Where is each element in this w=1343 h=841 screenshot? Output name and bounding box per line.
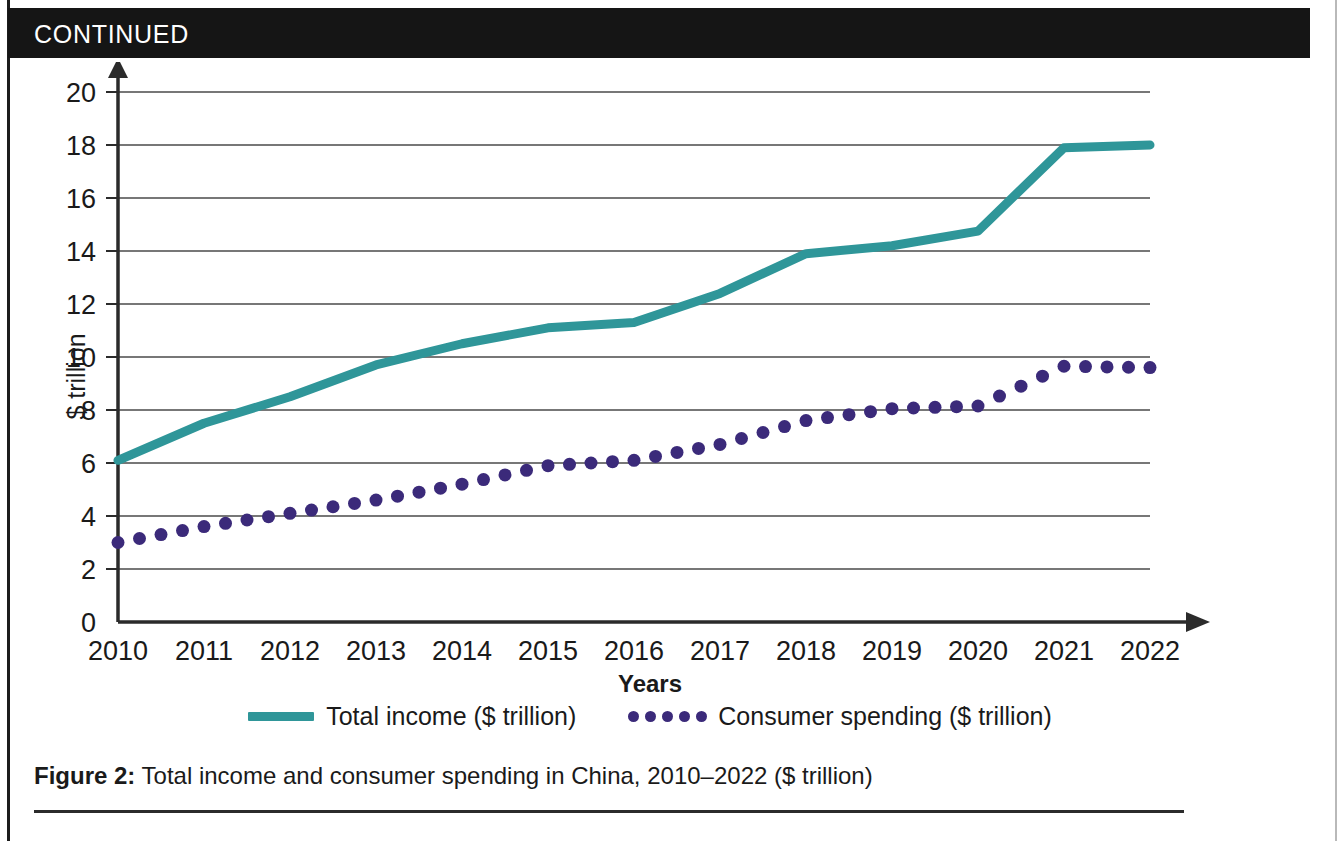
series-dot-consumer-spending — [843, 408, 856, 421]
y-axis-tick-label: 18 — [66, 131, 96, 161]
legend-line-swatch-icon — [248, 712, 314, 721]
series-dot-consumer-spending — [477, 473, 490, 486]
figure-caption: Figure 2: Total income and consumer spen… — [34, 762, 873, 790]
series-dot-consumer-spending — [950, 400, 963, 413]
series-dot-consumer-spending — [1144, 361, 1157, 374]
legend-dot-icon — [679, 711, 690, 722]
series-dot-consumer-spending — [778, 420, 791, 433]
series-dot-consumer-spending — [520, 464, 533, 477]
series-dot-consumer-spending — [413, 486, 426, 499]
series-dot-consumer-spending — [886, 402, 899, 415]
continued-banner-label: CONTINUED — [34, 20, 189, 49]
series-dot-consumer-spending — [563, 458, 576, 471]
series-dot-consumer-spending — [284, 507, 297, 520]
chart-legend: Total income ($ trillion) Consumer spend… — [100, 702, 1200, 731]
series-dot-consumer-spending — [348, 497, 361, 510]
series-dot-consumer-spending — [133, 532, 146, 545]
series-dot-consumer-spending — [262, 510, 275, 523]
series-dot-consumer-spending — [671, 446, 684, 459]
y-axis-tick-label: 16 — [66, 184, 96, 214]
series-dot-consumer-spending — [714, 438, 727, 451]
caption-divider — [34, 810, 1184, 813]
series-dot-consumer-spending — [1122, 361, 1135, 374]
x-axis-tick-label: 2015 — [518, 636, 578, 666]
series-dot-consumer-spending — [305, 504, 318, 517]
y-axis-tick-label: 14 — [66, 237, 96, 267]
legend-dotted-swatch-icon — [628, 711, 706, 723]
series-dot-consumer-spending — [542, 459, 555, 472]
series-dot-consumer-spending — [606, 455, 619, 468]
x-axis-tick-label: 2020 — [948, 636, 1008, 666]
y-axis-tick-label: 4 — [81, 502, 96, 532]
figure-container: 0246810121416182020102011201220132014201… — [10, 62, 1330, 822]
legend-entry-total-income: Total income ($ trillion) — [248, 702, 576, 731]
series-dot-consumer-spending — [327, 500, 340, 513]
legend-label-consumer-spending: Consumer spending ($ trillion) — [718, 702, 1051, 731]
y-axis-tick-label: 20 — [66, 78, 96, 108]
series-dot-consumer-spending — [800, 414, 813, 427]
series-dot-consumer-spending — [499, 468, 512, 481]
series-dot-consumer-spending — [1101, 360, 1114, 373]
x-axis-tick-label: 2022 — [1120, 636, 1180, 666]
figure-caption-text: Total income and consumer spending in Ch… — [135, 762, 872, 789]
page-border-right — [1335, 0, 1337, 841]
series-dot-consumer-spending — [1079, 360, 1092, 373]
x-axis-tick-label: 2017 — [690, 636, 750, 666]
legend-dot-icon — [645, 711, 656, 722]
legend-dot-icon — [628, 711, 639, 722]
series-dot-consumer-spending — [649, 450, 662, 463]
series-dot-consumer-spending — [1058, 360, 1071, 373]
series-dot-consumer-spending — [993, 390, 1006, 403]
x-axis-tick-label: 2013 — [346, 636, 406, 666]
figure-caption-label: Figure 2: — [34, 762, 135, 789]
continued-banner: CONTINUED — [8, 8, 1310, 58]
x-axis-tick-label: 2011 — [175, 636, 233, 666]
series-dot-consumer-spending — [219, 517, 232, 530]
series-dot-consumer-spending — [241, 513, 254, 526]
series-dot-consumer-spending — [907, 402, 920, 415]
legend-dot-icon — [662, 711, 673, 722]
x-axis-tick-label: 2019 — [862, 636, 922, 666]
series-dot-consumer-spending — [972, 400, 985, 413]
y-axis-arrow-icon — [108, 62, 128, 78]
y-axis-title: $ trillion — [62, 297, 91, 457]
series-dot-consumer-spending — [757, 426, 770, 439]
series-dot-consumer-spending — [370, 494, 383, 507]
series-dot-consumer-spending — [1036, 370, 1049, 383]
legend-label-total-income: Total income ($ trillion) — [326, 702, 576, 731]
x-axis-tick-label: 2010 — [88, 636, 148, 666]
series-line-total-income — [118, 145, 1150, 460]
series-dot-consumer-spending — [155, 528, 168, 541]
x-axis-title: Years — [100, 670, 1200, 698]
series-dot-consumer-spending — [112, 536, 125, 549]
legend-entry-consumer-spending: Consumer spending ($ trillion) — [628, 702, 1051, 731]
series-dot-consumer-spending — [176, 524, 189, 537]
line-chart: 0246810121416182020102011201220132014201… — [10, 62, 1220, 712]
x-axis-tick-label: 2012 — [260, 636, 320, 666]
series-dot-consumer-spending — [585, 457, 598, 470]
series-dot-consumer-spending — [929, 401, 942, 414]
x-axis-tick-label: 2018 — [776, 636, 836, 666]
series-dot-consumer-spending — [692, 442, 705, 455]
y-axis-tick-label: 2 — [81, 555, 96, 585]
series-dot-consumer-spending — [391, 490, 404, 503]
series-dot-consumer-spending — [821, 411, 834, 424]
x-axis-tick-label: 2014 — [432, 636, 492, 666]
series-dot-consumer-spending — [864, 405, 877, 418]
legend-dot-icon — [696, 711, 707, 722]
x-axis-arrow-icon — [1186, 612, 1210, 632]
series-dot-consumer-spending — [1015, 380, 1028, 393]
series-dot-consumer-spending — [735, 432, 748, 445]
series-dot-consumer-spending — [198, 520, 211, 533]
series-dot-consumer-spending — [456, 478, 469, 491]
x-axis-tick-label: 2021 — [1034, 636, 1094, 666]
figure-page: CONTINUED 024681012141618202010201120122… — [0, 0, 1343, 841]
x-axis-tick-label: 2016 — [604, 636, 664, 666]
series-dot-consumer-spending — [434, 482, 447, 495]
y-axis-tick-label: 0 — [81, 608, 96, 638]
series-dot-consumer-spending — [628, 454, 641, 467]
